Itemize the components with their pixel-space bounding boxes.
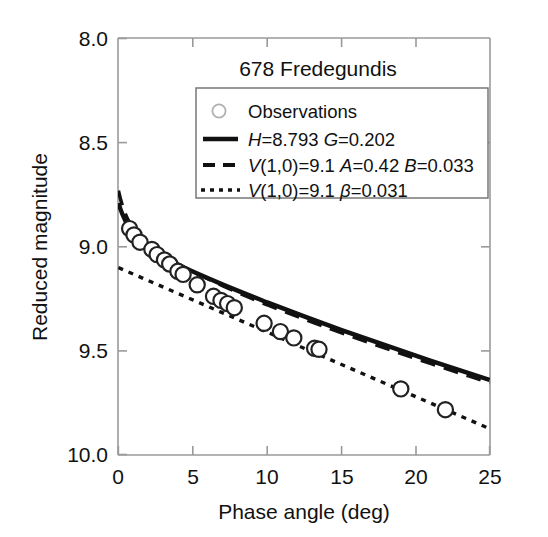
xtick-label-20: 20 <box>404 465 427 488</box>
observation-point <box>190 277 205 292</box>
xtick-label-0: 0 <box>112 465 124 488</box>
y-axis-title: Reduced magnitude <box>28 153 51 341</box>
chart-svg: 8.0 8.5 9.0 9.5 10.0 0 5 10 15 20 25 Pha… <box>0 0 548 537</box>
observation-point <box>176 267 191 282</box>
chart-title: 678 Fredegundis <box>239 57 397 80</box>
xtick-label-15: 15 <box>330 465 353 488</box>
observation-point <box>393 381 408 396</box>
xtick-label-25: 25 <box>478 465 501 488</box>
legend-label-observations: Observations <box>248 101 357 122</box>
x-axis-title: Phase angle (deg) <box>218 500 390 523</box>
observation-point <box>438 402 453 417</box>
x-axis-tick-labels: 0 5 10 15 20 25 <box>112 465 502 488</box>
legend-label-linear-exponential-model: V(1,0)=9.1 A=0.42 B=0.033 <box>248 155 474 176</box>
y-axis-tick-labels: 8.0 8.5 9.0 9.5 10.0 <box>67 27 108 466</box>
legend-label-linear-beta-model: V(1,0)=9.1 β=0.031 <box>248 180 408 201</box>
observation-point <box>227 300 242 315</box>
observation-point <box>257 316 272 331</box>
ytick-label-8.0: 8.0 <box>79 27 108 50</box>
legend-label-hg-model: H=8.793 G=0.202 <box>248 129 395 150</box>
ytick-label-9.5: 9.5 <box>79 339 108 362</box>
xtick-label-5: 5 <box>187 465 199 488</box>
xtick-label-10: 10 <box>255 465 278 488</box>
ytick-label-10.0: 10.0 <box>67 443 108 466</box>
ytick-label-9.0: 9.0 <box>79 235 108 258</box>
legend: Observations H=8.793 G=0.202 V(1,0)=9.1 … <box>196 88 488 201</box>
ytick-label-8.5: 8.5 <box>79 131 108 154</box>
observation-point <box>286 330 301 345</box>
observation-point <box>311 342 326 357</box>
asteroid-phase-curve-figure: 8.0 8.5 9.0 9.5 10.0 0 5 10 15 20 25 Pha… <box>0 0 548 537</box>
legend-marker-open-circle-icon <box>212 104 225 117</box>
